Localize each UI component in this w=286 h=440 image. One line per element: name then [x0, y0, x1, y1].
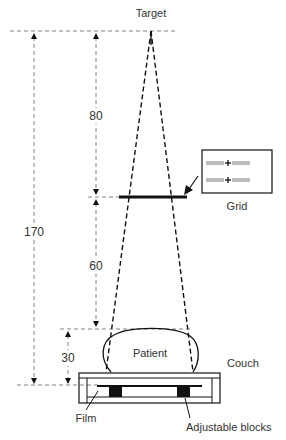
beam-right-edge	[151, 31, 193, 372]
dim-60-arrow-top	[93, 199, 99, 205]
film-label: Film	[76, 412, 97, 424]
adjustable-block-right	[177, 387, 190, 397]
film-leader-line	[86, 391, 98, 410]
dim-30-label: 30	[61, 351, 75, 365]
dim-170-arrow-top	[31, 33, 37, 39]
dim-30-arrow-bottom	[65, 378, 71, 384]
dim-80-label: 80	[89, 109, 103, 123]
couch-label: Couch	[227, 357, 259, 369]
dim-80-arrow-bottom	[93, 189, 99, 195]
adjustable-blocks-label: Adjustable blocks	[186, 421, 272, 433]
patient-label: Patient	[133, 347, 167, 359]
target-label: Target	[136, 7, 167, 19]
grid-pointer-arrowhead	[184, 185, 193, 195]
diagram-canvas: Target 170 80 60 30 Patient Couch Film	[0, 0, 286, 440]
grid-label: Grid	[227, 200, 248, 212]
dim-60-arrow-bottom	[93, 321, 99, 327]
dim-170-label: 170	[24, 225, 44, 239]
beam-left-edge	[106, 31, 151, 372]
adjustable-block-left	[109, 387, 122, 397]
dim-170-arrow-bottom	[31, 378, 37, 384]
dim-80-arrow-top	[93, 33, 99, 39]
grid-inset-box	[202, 150, 272, 193]
blocks-leader-line	[185, 398, 190, 418]
dim-30-arrow-top	[65, 331, 71, 337]
dim-60-label: 60	[89, 259, 103, 273]
grid-pointer-line	[189, 176, 198, 189]
